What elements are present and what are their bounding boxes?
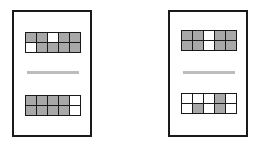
grid-cell-filled (59, 96, 69, 105)
right-top-grid (181, 30, 237, 51)
grid-cell-filled (48, 43, 58, 52)
grid-cell-filled (215, 41, 225, 50)
grid-cell-empty (204, 104, 214, 113)
grid-cell-filled (226, 41, 236, 50)
grid-cell-empty (182, 104, 192, 113)
grid-cell-filled (182, 31, 192, 40)
grid-cell-filled (193, 41, 203, 50)
grid-cell-filled (26, 106, 36, 115)
grid-cell-filled (48, 96, 58, 105)
grid-cell-empty (26, 43, 36, 52)
grid-cell-empty (193, 94, 203, 103)
left-divider (27, 71, 79, 74)
grid-cell-empty (204, 41, 214, 50)
grid-cell-empty (70, 96, 80, 105)
grid-cell-filled (226, 31, 236, 40)
grid-cell-filled (215, 104, 225, 113)
grid-cell-filled (37, 106, 47, 115)
grid-cell-filled (26, 33, 36, 42)
grid-cell-empty (70, 106, 80, 115)
left-bottom-grid (25, 95, 81, 116)
grid-cell-filled (182, 41, 192, 50)
grid-cell-empty (48, 33, 58, 42)
grid-cell-filled (193, 104, 203, 113)
grid-cell-filled (59, 33, 69, 42)
grid-cell-empty (226, 104, 236, 113)
grid-cell-filled (215, 94, 225, 103)
grid-cell-empty (182, 94, 192, 103)
grid-cell-filled (26, 96, 36, 105)
grid-cell-filled (70, 43, 80, 52)
grid-cell-filled (37, 43, 47, 52)
grid-cell-filled (70, 33, 80, 42)
grid-cell-filled (193, 31, 203, 40)
left-top-grid (25, 32, 81, 53)
grid-cell-filled (59, 106, 69, 115)
grid-cell-filled (48, 106, 58, 115)
grid-cell-empty (204, 31, 214, 40)
grid-cell-filled (215, 31, 225, 40)
grid-cell-filled (37, 96, 47, 105)
grid-cell-filled (59, 43, 69, 52)
grid-cell-empty (226, 94, 236, 103)
grid-cell-filled (37, 33, 47, 42)
grid-cell-empty (204, 94, 214, 103)
right-divider (183, 71, 235, 74)
right-bottom-grid (181, 93, 237, 114)
